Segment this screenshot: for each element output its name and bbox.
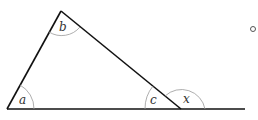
circle-marker-icon [251, 27, 256, 32]
label-c: c [150, 93, 157, 107]
side-ab [7, 11, 61, 109]
label-x: x [183, 92, 190, 106]
side-bc [61, 11, 181, 109]
triangle-diagram: a b c x [0, 0, 258, 120]
label-a: a [19, 93, 26, 107]
label-b: b [59, 20, 67, 34]
